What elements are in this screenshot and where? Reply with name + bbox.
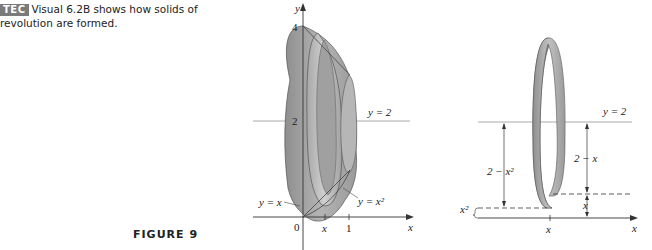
tick-x: x xyxy=(321,222,327,234)
x-axis-arrow xyxy=(406,214,414,220)
y-axis-label: y xyxy=(294,2,300,14)
dim-x2-label: x² xyxy=(459,203,469,215)
dim-x-label: x xyxy=(582,199,588,211)
curve-y-eq-x-label: y = x xyxy=(258,196,282,208)
tick-1: 1 xyxy=(346,222,352,234)
dim-inner-label: 2 − x xyxy=(574,152,597,164)
curve-y-eq-x2-label: y = x² xyxy=(357,195,385,207)
x-axis-arrow xyxy=(630,215,638,221)
dim-outer-label: 2 − x² xyxy=(487,165,514,177)
x-axis-label: x xyxy=(407,221,413,233)
ring xyxy=(533,38,565,208)
x-axis-label: x xyxy=(631,222,637,234)
diagrams: y 4 2 0 x 1 x y = 2 y = x y = x² xyxy=(0,0,652,250)
tick-2: 2 xyxy=(292,115,298,127)
line-y2-label: y = 2 xyxy=(367,106,392,118)
line-y2-label: y = 2 xyxy=(602,105,627,117)
left-solid-diagram: y 4 2 0 x 1 x y = 2 y = x y = x² xyxy=(253,2,414,250)
right-washer-diagram: y = 2 2 − x² 2 − x x x² x x xyxy=(459,38,638,235)
brace-x2 xyxy=(473,208,478,218)
y-axis-arrow xyxy=(300,3,306,11)
origin-label: 0 xyxy=(294,221,300,233)
tick-x: x xyxy=(545,223,551,235)
tick-4: 4 xyxy=(292,21,298,33)
